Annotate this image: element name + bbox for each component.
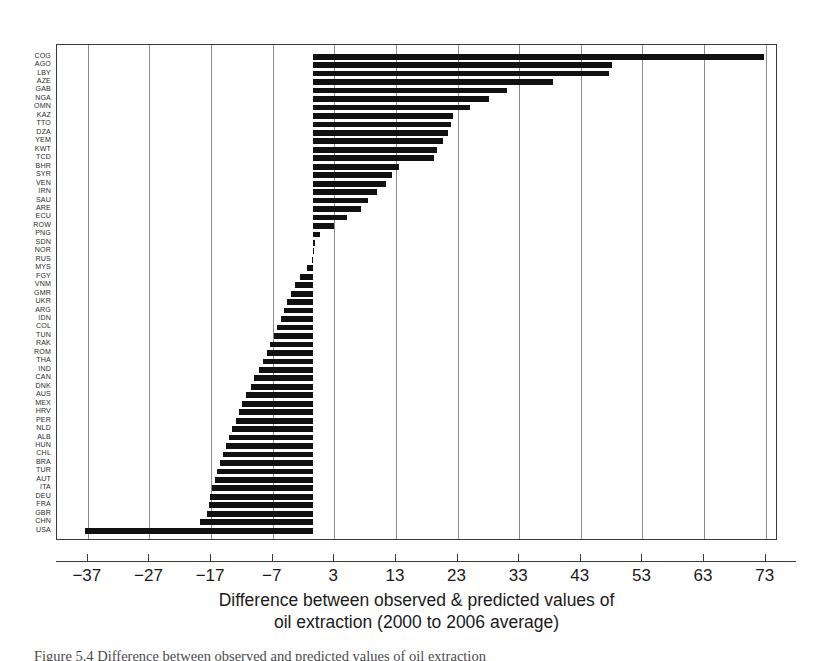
bar-ukr [287, 299, 313, 305]
bar-row [57, 171, 776, 179]
y-axis-label-sau: SAU [36, 196, 51, 204]
y-axis-label-are: ARE [36, 204, 51, 212]
bar-tha [263, 359, 313, 365]
bar-mex [242, 401, 313, 407]
bar-ago [313, 62, 611, 68]
bar-rus [312, 257, 313, 263]
y-axis-label-ven: VEN [36, 179, 51, 187]
y-axis-label-tha: THA [36, 356, 51, 364]
x-tick-mark--27 [148, 554, 149, 562]
bar-row [57, 112, 776, 120]
x-tick-mark--7 [272, 554, 273, 562]
bar-ven [313, 181, 386, 187]
bar-lby [313, 71, 609, 77]
bar-row [57, 103, 776, 111]
y-axis-label-nld: NLD [36, 424, 51, 432]
bar-row [57, 256, 776, 264]
x-tick-mark-73 [765, 554, 766, 562]
y-axis-label-png: PNG [35, 229, 51, 237]
bars-layer [57, 45, 776, 539]
bar-sau [313, 198, 367, 204]
y-axis-label-kaz: KAZ [37, 111, 51, 119]
bar-row [57, 137, 776, 145]
bar-row [57, 315, 776, 323]
bar-tur [217, 469, 313, 475]
y-axis-label-hrv: HRV [36, 407, 51, 415]
x-tick-label-43: 43 [550, 566, 610, 586]
y-axis-label-fra: FRA [36, 500, 51, 508]
bar-row [57, 281, 776, 289]
bar-row [57, 264, 776, 272]
bar-aut [215, 477, 314, 483]
y-axis-label-vnm: VNM [35, 280, 51, 288]
y-axis-label-rak: RAK [36, 339, 51, 347]
bar-row [57, 374, 776, 382]
y-axis-label-chl: CHL [36, 449, 51, 457]
bar-row [57, 239, 776, 247]
bar-nld [232, 426, 313, 432]
bar-row [57, 484, 776, 492]
bar-row [57, 383, 776, 391]
y-axis-label-mys: MYS [35, 263, 51, 271]
y-axis-label-dza: DZA [36, 128, 51, 136]
y-axis-label-kwt: KWT [35, 145, 51, 153]
y-axis-label-rom: ROM [34, 348, 51, 356]
bar-dza [313, 130, 447, 136]
x-axis-title-line-1: Difference between observed & predicted … [56, 589, 777, 611]
bar-arg [284, 308, 314, 314]
y-axis-label-ecu: ECU [36, 212, 51, 220]
bar-bra [220, 460, 313, 466]
x-tick-mark-33 [518, 554, 519, 562]
bar-row [57, 340, 776, 348]
y-axis-label-deu: DEU [36, 492, 51, 500]
y-axis-label-tcd: TCD [36, 153, 51, 161]
bar-row [57, 442, 776, 450]
bar-ind [259, 367, 313, 373]
bar-chn [200, 519, 313, 525]
y-axis-label-usa: USA [36, 526, 51, 534]
bar-row [57, 120, 776, 128]
bar-row [57, 290, 776, 298]
bar-row [313, 223, 334, 229]
bar-usa [85, 528, 314, 534]
y-axis-label-col: COL [36, 322, 51, 330]
y-axis-label-nor: NOR [35, 246, 51, 254]
bar-ecu [313, 215, 346, 221]
bar-cog [313, 54, 764, 60]
bar-row [57, 222, 776, 230]
x-tick-mark-43 [580, 554, 581, 562]
bar-nor [313, 248, 314, 254]
bar-row [57, 213, 776, 221]
y-axis-label-gbr: GBR [35, 509, 51, 517]
y-axis-label-bhr: BHR [36, 162, 51, 170]
bar-row [57, 425, 776, 433]
bar-row [57, 188, 776, 196]
y-axis-label-ind: IND [38, 365, 51, 373]
y-axis-label-syr: SYR [36, 170, 51, 178]
bar-yem [313, 138, 442, 144]
bar-gbr [207, 511, 314, 517]
bar-tto [313, 122, 451, 128]
y-axis-label-cog: COG [34, 52, 51, 60]
y-axis-label-alb: ALB [37, 433, 51, 441]
bar-irn [313, 189, 377, 195]
bar-row [57, 400, 776, 408]
y-axis-label-lby: LBY [37, 69, 51, 77]
bar-row [57, 518, 776, 526]
x-tick-mark-3 [333, 554, 334, 562]
y-axis-label-hun: HUN [35, 441, 51, 449]
y-axis-label-yem: YEM [35, 136, 51, 144]
bar-omn [313, 105, 470, 111]
x-tick-label-13: 13 [365, 566, 425, 586]
bar-row [57, 450, 776, 458]
bar-row [57, 205, 776, 213]
y-axis-label-aut: AUT [36, 475, 51, 483]
x-tick-label-23: 23 [427, 566, 487, 586]
y-axis-label-per: PER [36, 416, 51, 424]
bar-row [57, 146, 776, 154]
y-axis-label-gmr: GMR [34, 289, 51, 297]
bar-row [57, 459, 776, 467]
figure: COGAGOLBYAZEGABNGAOMNKAZTTODZAYEMKWTTCDB… [0, 0, 822, 661]
bar-tun [274, 333, 313, 339]
y-axis-label-ukr: UKR [36, 297, 51, 305]
